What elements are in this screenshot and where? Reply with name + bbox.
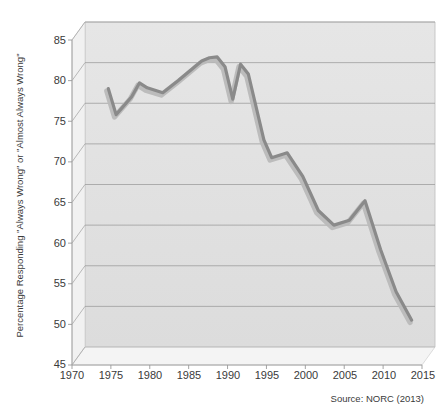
plot-3d-body: [72, 22, 435, 365]
source-note: Source: NORC (2013): [331, 393, 424, 404]
plot-area: [0, 0, 442, 418]
chart-figure: Percentage Responding "Always Wrong" or …: [0, 0, 442, 418]
